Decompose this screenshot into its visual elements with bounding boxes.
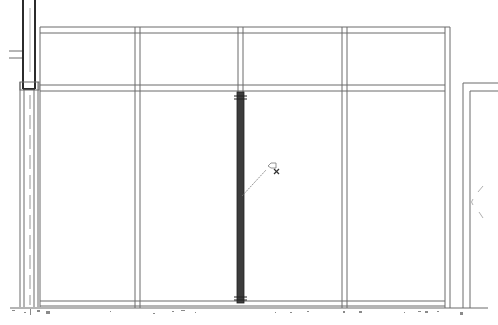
figure-caption (0, 318, 498, 325)
annotation-leader (242, 170, 266, 196)
mullion-3[interactable] (342, 27, 347, 308)
elevation-drawing[interactable] (0, 0, 498, 325)
right-door-frame (463, 83, 498, 308)
floor-marks (12, 309, 463, 315)
element-tag-icon[interactable] (268, 163, 279, 174)
mullion-1[interactable] (135, 27, 140, 308)
selected-mullion[interactable] (234, 92, 247, 303)
mullion-end[interactable] (445, 27, 450, 308)
mullion-2[interactable] (238, 27, 243, 92)
left-column (9, 0, 40, 307)
head-rail (40, 27, 450, 33)
